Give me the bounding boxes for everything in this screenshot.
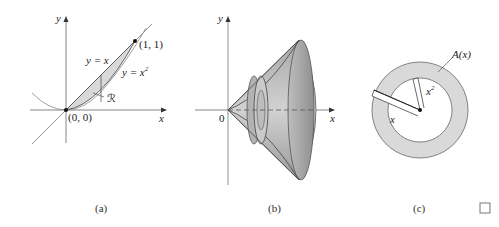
y-axis-label: y <box>55 12 61 24</box>
caption-a: (a) <box>95 202 108 215</box>
region-label: ℛ <box>107 92 116 104</box>
x-axis-label: x <box>158 112 164 124</box>
point-one-one-label: (1, 1) <box>139 38 163 51</box>
caption-b: (b) <box>268 202 281 215</box>
parabola-label: y = x2 <box>121 65 149 78</box>
area-label: A(x) <box>451 48 471 61</box>
caption-c: (c) <box>413 202 426 215</box>
figure-canvas: y x (1, 1) (0, 0) y = x y = x2 ℛ (a) y <box>0 0 499 227</box>
panel-c: A(x) x x2 (c) <box>372 48 471 215</box>
y-axis-arrow-icon <box>226 16 231 22</box>
inner-radius-label: x2 <box>425 84 435 97</box>
panel-b: y x 0 (b) <box>195 12 335 215</box>
center-point <box>418 108 422 112</box>
y-axis-arrow-icon <box>64 16 69 22</box>
end-mark-icon <box>480 203 490 213</box>
line-label: y = x <box>85 54 109 66</box>
point-one-one <box>133 39 137 43</box>
panel-a: y x (1, 1) (0, 0) y = x y = x2 ℛ (a) <box>30 12 167 215</box>
point-origin-label: (0, 0) <box>68 111 92 124</box>
origin-label: 0 <box>219 112 225 124</box>
x-axis-label: x <box>329 112 335 124</box>
y-axis-label: y <box>217 12 223 24</box>
outer-radius-label: x <box>389 113 395 125</box>
inner-radius-strip <box>413 78 424 110</box>
